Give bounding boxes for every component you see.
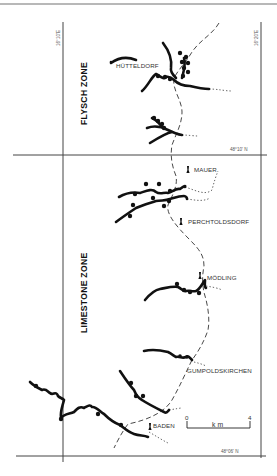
site-dot	[96, 412, 100, 416]
dotted-branch-2	[182, 135, 198, 136]
latitude-label-middle: 48°10' N	[230, 147, 248, 152]
site-dot	[182, 66, 186, 70]
site-dot	[184, 55, 188, 59]
site-dot	[152, 116, 156, 120]
hutteldorf-marker	[110, 61, 113, 64]
dotted-branch-5	[206, 286, 222, 290]
scale-start-label: 0	[185, 414, 189, 421]
dotted-branch-6	[194, 362, 206, 366]
dotted-branch-3	[185, 171, 218, 193]
site-dot	[134, 394, 138, 398]
site-dot	[186, 61, 190, 65]
site-dot	[131, 203, 135, 207]
stream-gumpoldskirchen	[144, 350, 192, 360]
sites	[34, 51, 201, 427]
place-label-baden: BADEN	[153, 422, 175, 429]
site-dot	[178, 51, 182, 55]
limestone-zone-label: LIMESTONE ZONE	[79, 253, 89, 333]
site-dot	[167, 199, 171, 203]
site-dot	[128, 214, 132, 218]
dotted-branch-1	[209, 89, 232, 91]
baden-marker-icon	[148, 423, 151, 430]
stream-baden-main	[30, 382, 148, 437]
map-frame	[13, 22, 267, 462]
site-dot	[119, 423, 123, 427]
stream-mauer-south	[116, 196, 187, 222]
site-dot	[34, 384, 38, 388]
site-dot	[160, 122, 164, 126]
site-dot	[168, 189, 172, 193]
longitude-label-right: 16°20'E	[254, 30, 259, 46]
site-dot	[129, 381, 133, 385]
place-label-perchtoldsdorf: PERCHTOLDSDORF	[188, 218, 249, 225]
longitude-label-left: 16°10'E	[56, 30, 61, 46]
latitude-label-bottom: 48°06' N	[221, 449, 239, 454]
site-dot	[156, 74, 160, 78]
flysch-zone-label: FLYSCH ZONE	[79, 62, 89, 125]
scale-end-label: 4	[248, 414, 252, 421]
scale-unit-label: km	[212, 421, 225, 428]
site-dot	[156, 119, 160, 123]
site-dot	[175, 282, 179, 286]
site-dot	[178, 354, 182, 358]
streams	[30, 43, 209, 437]
dotted-branch-8	[149, 432, 168, 443]
site-dot	[188, 290, 192, 294]
site-dot	[151, 196, 155, 200]
dotted-branch-7	[169, 408, 182, 410]
site-dot	[197, 291, 201, 295]
site-dot	[185, 355, 189, 359]
perchtoldsdorf-marker-icon	[179, 218, 182, 225]
place-label-hutteldorf: HÜTTELDORF	[116, 62, 159, 69]
site-dot	[162, 126, 166, 130]
stream-flysch-south-2	[150, 132, 172, 143]
site-dot	[181, 74, 185, 78]
mauer-marker-icon	[186, 166, 189, 173]
site-dot	[141, 394, 145, 398]
site-dot	[157, 182, 161, 186]
site-dot	[180, 60, 184, 64]
stream-baden-north	[120, 371, 169, 413]
site-dot	[133, 192, 137, 196]
site-dot	[186, 70, 190, 74]
site-dot	[168, 77, 172, 81]
place-label-gumpoldskirchen: GUMPOLDSKIRCHEN	[187, 367, 252, 374]
site-dot	[182, 288, 186, 292]
stream-hutteldorf-valley	[163, 43, 176, 78]
place-label-mauer: MAUER	[194, 166, 217, 173]
geologic-site-map: 16°10'E 16°20'E 48°10' N 48°06' N FLYSCH…	[0, 0, 277, 476]
dotted-branch-4	[187, 198, 210, 200]
site-dot	[163, 75, 167, 79]
scale-bar: 0 4 km	[185, 414, 252, 428]
site-dot	[144, 182, 148, 186]
modling-marker-icon	[198, 272, 201, 279]
site-dot	[162, 204, 166, 208]
site-dot	[59, 417, 63, 421]
place-label-modling: MÖDLING	[207, 274, 237, 281]
